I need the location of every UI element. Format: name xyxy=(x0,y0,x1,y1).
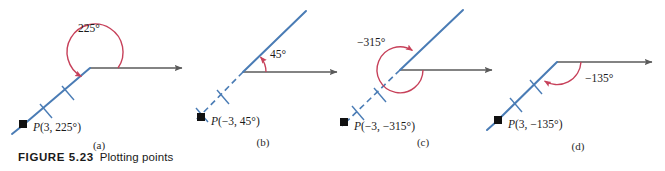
panel-a-point-label: P(3, 225°) xyxy=(32,121,81,134)
panel-b-angle-arc xyxy=(261,57,267,72)
panel-b-point-marker xyxy=(197,113,205,121)
figure-container: P(3, 225°) 225° (a) P(−3, 45°) 45° (b) xyxy=(0,0,665,171)
panel-d-point-marker xyxy=(494,116,502,124)
panel-d: P(3, −135°) −135° (d) xyxy=(487,62,652,153)
panel-c-angle-label: −315° xyxy=(357,36,386,48)
panel-d-angle-arc xyxy=(545,62,582,85)
panel-c-tick-2 xyxy=(352,106,364,120)
figure-caption-text: Plotting points xyxy=(100,151,174,163)
panel-c-point-label: P(−3, −315°) xyxy=(353,120,415,133)
panel-a-angle-label: 225° xyxy=(78,22,100,34)
panel-b: P(−3, 45°) 45° (b) xyxy=(194,11,337,149)
panel-b-point-label: P(−3, 45°) xyxy=(210,115,260,128)
panel-d-terminal-ray xyxy=(496,62,557,122)
panel-c-sublabel: (c) xyxy=(417,136,430,149)
figure-caption: FIGURE 5.23Plotting points xyxy=(18,151,173,163)
panel-c-point-marker xyxy=(340,118,348,126)
panel-a: P(3, 225°) 225° (a) xyxy=(12,22,182,152)
panel-a-point-marker xyxy=(19,120,27,128)
panel-d-angle-label: −135° xyxy=(585,72,614,84)
panel-a-terminal-ray xyxy=(22,68,90,126)
panel-b-sublabel: (b) xyxy=(257,136,270,149)
panel-b-terminal-ray xyxy=(243,11,306,72)
panel-c-opposite-ray xyxy=(342,70,400,126)
figure-number: FIGURE 5.23 xyxy=(18,151,94,163)
figure-drawing: P(3, 225°) 225° (a) P(−3, 45°) 45° (b) xyxy=(0,0,665,171)
panel-d-point-label: P(3, −135°) xyxy=(507,118,563,131)
panel-d-tick-2 xyxy=(510,98,522,112)
panel-d-sublabel: (d) xyxy=(572,140,585,153)
panel-c-terminal-ray xyxy=(400,10,463,70)
panel-c: P(−3, −315°) −315° (c) xyxy=(340,10,492,149)
panel-a-tick-1 xyxy=(62,86,74,100)
panel-c-tick-1 xyxy=(374,88,386,102)
panel-b-angle-label: 45° xyxy=(270,48,287,60)
